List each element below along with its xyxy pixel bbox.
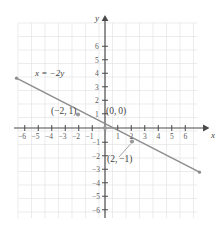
x-tick-label-4: 4 — [157, 133, 161, 141]
y-tick-label-neg5: −5 — [92, 193, 100, 201]
point-label-neg2-1: (−2, 1) — [51, 107, 76, 117]
equation-label: x = −2y — [35, 69, 64, 78]
coordinate-plane-graph: y x −6 −5 −4 −3 −2 −1 1 2 3 4 5 6 6 5 4 … — [0, 0, 224, 231]
y-tick-label-neg2: −2 — [92, 153, 100, 161]
x-tick-label-neg5: −5 — [32, 133, 40, 141]
y-tick-label-5: 5 — [95, 57, 99, 65]
x-tick-label-3: 3 — [143, 133, 147, 141]
x-tick-label-neg3: −3 — [59, 133, 67, 141]
point-label-origin: (0, 0) — [106, 107, 126, 117]
y-tick-label-4: 4 — [95, 70, 99, 78]
y-axis-label: y — [95, 14, 99, 23]
y-tick-label-6: 6 — [95, 43, 99, 51]
x-tick-label-2: 2 — [130, 133, 134, 141]
x-axis-label: x — [211, 131, 215, 140]
x-tick-label-6: 6 — [184, 133, 188, 141]
x-tick-label-5: 5 — [170, 133, 174, 141]
point-origin — [103, 126, 107, 130]
point-neg2-1 — [76, 112, 80, 116]
x-tick-label-neg6: −6 — [18, 133, 26, 141]
y-tick-label-1: 1 — [95, 111, 99, 119]
y-tick-label-neg4: −4 — [92, 180, 100, 188]
y-tick-label-neg6: −6 — [92, 207, 100, 215]
y-tick-label-neg3: −3 — [92, 166, 100, 174]
grid-lines — [18, 23, 197, 218]
y-tick-label-3: 3 — [95, 84, 99, 92]
y-tick-label-2: 2 — [95, 97, 99, 105]
y-tick-label-neg1: −1 — [92, 139, 100, 147]
y-axis — [102, 15, 109, 218]
point-label-2-neg1: (2, −1) — [107, 155, 132, 165]
x-tick-label-neg4: −4 — [45, 133, 53, 141]
x-tick-label-1: 1 — [116, 133, 120, 141]
x-tick-label-neg2: −2 — [72, 133, 80, 141]
